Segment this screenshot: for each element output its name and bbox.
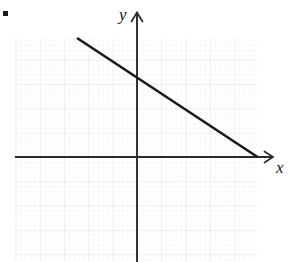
coordinate-plane (0, 0, 292, 262)
x-axis-label: x (276, 159, 284, 176)
graph-figure: y x (0, 0, 292, 262)
y-axis-label: y (119, 6, 127, 23)
